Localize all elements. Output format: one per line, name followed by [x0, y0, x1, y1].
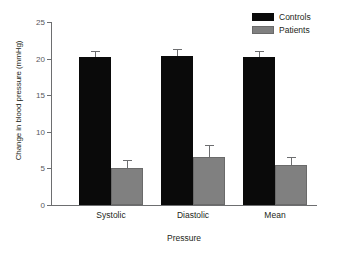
- bar-mean-controls: [243, 57, 275, 205]
- y-axis-line: [51, 22, 52, 205]
- error-bar-cap: [205, 145, 214, 146]
- error-bar-stem: [177, 49, 178, 56]
- error-bar-diastolic-patients: [193, 145, 225, 157]
- legend-item-controls[interactable]: Controls: [252, 11, 311, 22]
- bar-mean-patients: [275, 165, 307, 205]
- legend-label: Patients: [279, 25, 310, 35]
- plot-area: 0510152025 SystolicDiastolicMean: [51, 22, 317, 205]
- y-tick-label: 10: [36, 127, 45, 136]
- error-bar-cap: [255, 51, 264, 52]
- error-bar-mean-controls: [243, 51, 275, 58]
- x-tick-label-systolic: Systolic: [96, 210, 125, 220]
- x-tick-label-mean: Mean: [264, 210, 285, 220]
- y-axis-label-container: Change in blood pressure (mmHg): [0, 0, 22, 210]
- y-tick-mark: [47, 205, 51, 206]
- y-tick-mark: [47, 168, 51, 169]
- chart-legend: ControlsPatients: [252, 11, 311, 37]
- y-tick-mark: [47, 132, 51, 133]
- error-bar-cap: [123, 160, 132, 161]
- y-tick-mark: [47, 95, 51, 96]
- error-bar-cap: [173, 49, 182, 50]
- y-tick-label: 5: [41, 164, 45, 173]
- bar-systolic-controls: [79, 57, 111, 205]
- bar-systolic-patients: [111, 168, 143, 205]
- chart-figure: Change in blood pressure (mmHg) 05101520…: [0, 0, 337, 255]
- y-tick-label: 20: [36, 54, 45, 63]
- y-tick-mark: [47, 59, 51, 60]
- error-bar-stem: [291, 157, 292, 165]
- x-axis-line: [51, 205, 317, 206]
- y-tick-label: 0: [41, 201, 45, 210]
- legend-swatch-icon: [252, 26, 274, 34]
- legend-swatch-icon: [252, 13, 274, 21]
- error-bar-systolic-patients: [111, 160, 143, 169]
- legend-item-patients[interactable]: Patients: [252, 24, 311, 35]
- error-bar-stem: [209, 145, 210, 157]
- y-tick-mark: [47, 22, 51, 23]
- y-tick-label: 15: [36, 91, 45, 100]
- bar-diastolic-patients: [193, 157, 225, 205]
- error-bar-cap: [91, 51, 100, 52]
- error-bar-diastolic-controls: [161, 49, 193, 56]
- error-bar-mean-patients: [275, 157, 307, 165]
- x-axis-label: Pressure: [51, 233, 317, 243]
- bottom-crop-artifact: [0, 249, 337, 255]
- y-axis-label: Change in blood pressure (mmHg): [14, 11, 23, 191]
- bar-diastolic-controls: [161, 56, 193, 205]
- error-bar-stem: [127, 160, 128, 169]
- x-tick-label-diastolic: Diastolic: [177, 210, 209, 220]
- error-bar-cap: [287, 157, 296, 158]
- legend-label: Controls: [279, 12, 311, 22]
- y-tick-label: 25: [36, 18, 45, 27]
- error-bar-systolic-controls: [79, 51, 111, 58]
